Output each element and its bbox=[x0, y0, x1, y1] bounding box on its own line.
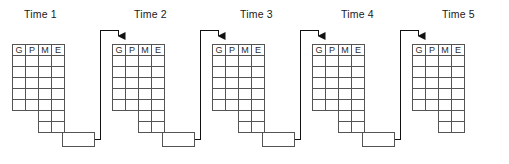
column-header-e-5: E bbox=[455, 45, 461, 55]
table-time-2 bbox=[113, 45, 165, 133]
column-header-m-4: M bbox=[341, 45, 349, 55]
column-header-m-5: M bbox=[441, 45, 449, 55]
adjust-box-2[interactable] bbox=[163, 133, 195, 147]
column-header-g-4: G bbox=[315, 45, 322, 55]
table-time-1 bbox=[13, 45, 65, 133]
column-header-p-1: P bbox=[29, 45, 35, 55]
diagram-vector-layer: G P M E G P bbox=[0, 0, 509, 164]
table-time-4 bbox=[313, 45, 365, 133]
column-header-p-3: P bbox=[229, 45, 235, 55]
column-header-e-1: E bbox=[55, 45, 61, 55]
column-header-p-4: P bbox=[329, 45, 335, 55]
column-header-m-3: M bbox=[241, 45, 249, 55]
diagram-canvas: Time 1 Time 2 Time 3 Time 4 Time 5 Adjus… bbox=[0, 0, 509, 164]
adjust-box-3[interactable] bbox=[263, 133, 295, 147]
column-header-m-2: M bbox=[141, 45, 149, 55]
column-header-e-2: E bbox=[155, 45, 161, 55]
column-header-m-1: M bbox=[41, 45, 49, 55]
column-header-g-5: G bbox=[415, 45, 422, 55]
column-header-g-2: G bbox=[115, 45, 122, 55]
table-time-5 bbox=[413, 45, 465, 133]
group-time-4: G P M E bbox=[313, 45, 395, 147]
group-time-2: G P M E bbox=[113, 45, 195, 147]
group-time-1: G P M E bbox=[13, 45, 95, 147]
column-header-g-3: G bbox=[215, 45, 222, 55]
column-header-e-3: E bbox=[255, 45, 261, 55]
column-header-e-4: E bbox=[355, 45, 361, 55]
adjust-box-1[interactable] bbox=[63, 133, 95, 147]
adjust-box-4[interactable] bbox=[363, 133, 395, 147]
table-time-3 bbox=[213, 45, 265, 133]
column-header-p-2: P bbox=[129, 45, 135, 55]
column-header-p-5: P bbox=[429, 45, 435, 55]
column-header-g-1: G bbox=[15, 45, 22, 55]
group-time-5: G P M E bbox=[413, 45, 465, 133]
group-time-3: G P M E bbox=[213, 45, 295, 147]
